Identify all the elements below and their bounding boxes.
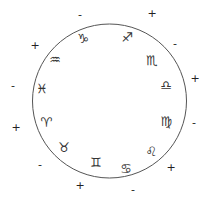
- polarity-label: +: [75, 180, 84, 191]
- polarity-label: -: [192, 117, 196, 128]
- scorpio-icon: ♏: [146, 54, 158, 67]
- polarity-label: -: [11, 80, 15, 91]
- polarity-label: -: [38, 159, 42, 170]
- polarity-label: -: [131, 184, 135, 195]
- polarity-label: +: [166, 162, 175, 173]
- aries-icon: ♈: [40, 116, 52, 129]
- sagittarius-icon: ♐: [121, 31, 133, 44]
- wheel-ring: [33, 24, 187, 178]
- polarity-label: +: [11, 122, 20, 133]
- pisces-icon: ♓: [36, 82, 48, 95]
- capricorn-icon: ♑: [77, 32, 89, 45]
- polarity-label: -: [173, 38, 177, 49]
- polarity-label: +: [30, 40, 39, 51]
- leo-icon: ♌: [145, 145, 157, 158]
- libra-icon: ♎: [160, 79, 172, 92]
- gemini-icon: ♊: [90, 156, 102, 169]
- zodiac-circle: [0, 0, 208, 203]
- aquarius-icon: ♒: [49, 53, 61, 66]
- virgo-icon: ♍: [160, 115, 172, 128]
- taurus-icon: ♉: [58, 141, 70, 154]
- cancer-icon: ♋: [120, 162, 132, 175]
- polarity-label: +: [147, 8, 156, 19]
- polarity-label: -: [78, 9, 82, 20]
- polarity-label: +: [190, 73, 199, 84]
